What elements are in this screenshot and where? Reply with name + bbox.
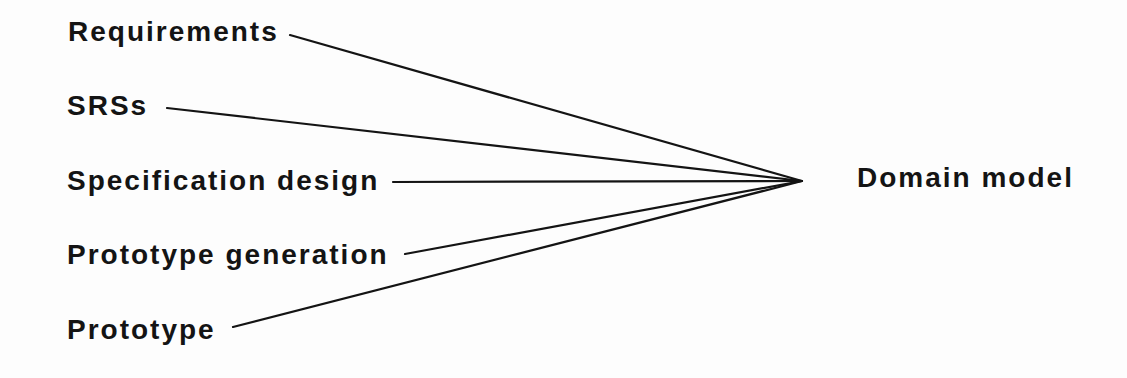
connector-requirements xyxy=(290,35,802,181)
connector-specification-design xyxy=(393,181,802,182)
source-label-prototype-generation: Prototype generation xyxy=(67,241,389,269)
source-label-prototype: Prototype xyxy=(67,316,216,344)
source-label-srss: SRSs xyxy=(67,92,148,120)
source-label-specification-design: Specification design xyxy=(67,167,379,195)
target-label-domain-model: Domain model xyxy=(857,164,1074,192)
source-label-requirements: Requirements xyxy=(68,18,279,46)
connector-prototype-generation xyxy=(405,181,802,254)
domain-model-diagram: Requirements SRSs Specification design P… xyxy=(0,0,1127,378)
